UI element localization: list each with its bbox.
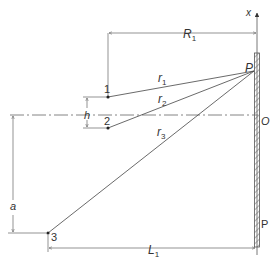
h-label: h bbox=[84, 109, 90, 121]
P-top-label: P bbox=[245, 61, 253, 75]
R1-dimension bbox=[108, 33, 256, 97]
O-label: O bbox=[261, 115, 270, 127]
R1-label: R1 bbox=[183, 27, 197, 43]
ray-r2 bbox=[108, 71, 254, 128]
rays bbox=[48, 71, 254, 233]
L1-label: L1 bbox=[148, 243, 160, 259]
point-2-label: 2 bbox=[104, 115, 110, 127]
a-dimension bbox=[8, 116, 46, 233]
r2-label: r2 bbox=[158, 92, 167, 108]
geometry-diagram: x R1 P r1 r2 r3 1 2 3 h a O P L1 bbox=[0, 0, 276, 260]
r3-label: r3 bbox=[157, 125, 166, 141]
screen-plate bbox=[255, 53, 260, 247]
ray-r3 bbox=[48, 71, 254, 233]
point-3-label: 3 bbox=[51, 231, 57, 243]
ray-r1 bbox=[108, 71, 254, 97]
x-axis-label: x bbox=[245, 7, 252, 18]
point-3 bbox=[46, 231, 49, 234]
point-1-label: 1 bbox=[104, 83, 110, 95]
P-bottom-label: P bbox=[261, 218, 268, 230]
r1-label: r1 bbox=[158, 71, 167, 87]
a-label: a bbox=[10, 200, 16, 212]
